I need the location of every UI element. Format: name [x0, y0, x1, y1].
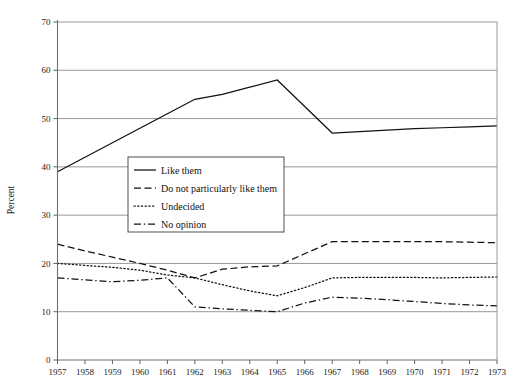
y-tick-label-20: 20 — [42, 259, 52, 269]
y-tick-label-0: 0 — [46, 355, 51, 365]
x-tick-label-1966: 1966 — [296, 367, 315, 377]
x-tick-label-1968: 1968 — [351, 367, 370, 377]
x-tick-label-1962: 1962 — [186, 367, 204, 377]
legend-label-like-them: Like them — [161, 165, 202, 176]
y-tick-label-30: 30 — [42, 210, 52, 220]
legend-label-undecided: Undecided — [161, 201, 204, 212]
y-tick-label-70: 70 — [42, 17, 52, 27]
x-tick-label-1971: 1971 — [433, 367, 451, 377]
y-tick-label-60: 60 — [42, 65, 52, 75]
legend-label-no-opinion: No opinion — [161, 219, 206, 230]
x-tick-label-1959: 1959 — [103, 367, 122, 377]
line-chart: 010203040506070 195719581959196019611962… — [0, 0, 521, 386]
x-tick-label-1963: 1963 — [213, 367, 232, 377]
x-tick-label-1965: 1965 — [268, 367, 287, 377]
x-tick-label-1967: 1967 — [323, 367, 342, 377]
x-tick-label-1960: 1960 — [131, 367, 150, 377]
x-tick-label-1964: 1964 — [241, 367, 260, 377]
x-tick-label-1961: 1961 — [158, 367, 176, 377]
y-tick-label-10: 10 — [42, 307, 52, 317]
y-tick-label-50: 50 — [42, 114, 52, 124]
y-tick-label-40: 40 — [42, 162, 52, 172]
y-axis-title: Percent — [6, 185, 16, 214]
x-tick-label-1957: 1957 — [49, 367, 68, 377]
x-tick-label-1973: 1973 — [488, 367, 507, 377]
chart-canvas: 010203040506070 195719581959196019611962… — [0, 0, 521, 386]
x-tick-label-1970: 1970 — [406, 367, 425, 377]
x-tick-labels: 1957195819591960196119621963196419651966… — [49, 367, 507, 377]
legend-label-do-not-particularly-like-them: Do not particularly like them — [161, 183, 277, 194]
x-tick-label-1958: 1958 — [76, 367, 95, 377]
x-tick-label-1969: 1969 — [378, 367, 397, 377]
chart-legend: Like themDo not particularly like themUn… — [128, 157, 284, 232]
x-tick-label-1972: 1972 — [461, 367, 479, 377]
